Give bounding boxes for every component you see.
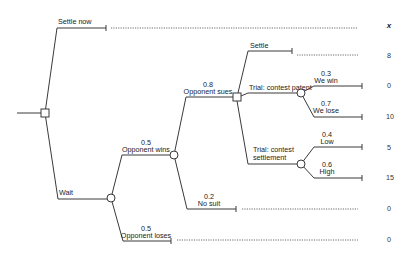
payoff-we-win: 0 bbox=[387, 81, 391, 90]
label-low: Low bbox=[320, 137, 334, 146]
chance-node-patent bbox=[297, 89, 305, 97]
chance-node-settlement bbox=[297, 160, 305, 168]
decision-node-sue bbox=[233, 93, 241, 101]
branch-opponent-sues bbox=[174, 97, 233, 155]
chance-node-wait bbox=[107, 194, 115, 202]
payoff-opponent-loses: 0 bbox=[387, 235, 391, 244]
chance-node-opponent-wins bbox=[170, 151, 178, 159]
label-high: High bbox=[320, 167, 335, 176]
label-opponent-wins: Opponent wins bbox=[122, 145, 170, 154]
payoff-no-suit: 0 bbox=[387, 204, 391, 213]
label-settle: Settle bbox=[250, 41, 268, 50]
branch-settle-now bbox=[45, 28, 106, 113]
label-opponent-loses: Opponent loses bbox=[121, 231, 172, 240]
payoff-we-lose: 10 bbox=[386, 112, 394, 121]
decision-node-root bbox=[41, 109, 49, 117]
branch-wait bbox=[45, 113, 107, 199]
label-we-win: We win bbox=[314, 76, 337, 85]
label-opponent-sues: Opponent sues bbox=[184, 87, 233, 96]
payoff-low: 5 bbox=[387, 143, 391, 152]
label-settle-now: Settle now bbox=[58, 17, 92, 26]
payoff-settle: 8 bbox=[387, 51, 391, 60]
branch-opponent-wins bbox=[111, 155, 171, 198]
label-trial-settlement-2: settlement bbox=[253, 153, 286, 162]
label-wait: Wait bbox=[59, 188, 73, 197]
branch-trial-patent bbox=[241, 93, 297, 96]
label-we-lose: We lose bbox=[313, 106, 339, 115]
decision-tree: x Settle now Wait 0.5 Opponent wins 0.5 … bbox=[0, 0, 414, 257]
value-column-header: x bbox=[386, 21, 392, 30]
payoff-high: 15 bbox=[386, 173, 394, 182]
label-no-suit: No suit bbox=[198, 199, 220, 208]
